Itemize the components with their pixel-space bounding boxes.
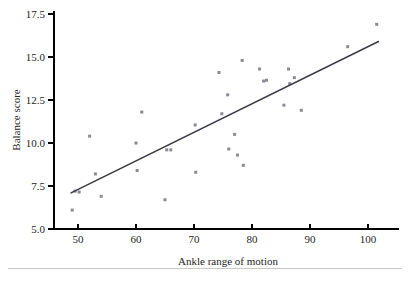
y-tick-label: 12.5 xyxy=(26,94,46,106)
x-axis-title: Ankle range of motion xyxy=(178,255,278,267)
data-point xyxy=(169,148,172,151)
data-point xyxy=(164,198,167,201)
x-tick-label: 100 xyxy=(360,233,377,245)
y-tick-label: 5.0 xyxy=(31,223,45,235)
data-point xyxy=(100,195,103,198)
y-axis-title: Balance score xyxy=(10,89,22,150)
x-tick-label: 90 xyxy=(305,233,317,245)
data-point xyxy=(220,112,223,115)
data-point xyxy=(346,45,349,48)
data-point xyxy=(227,148,230,151)
y-tick-label: 10.0 xyxy=(26,137,46,149)
x-tick-label: 70 xyxy=(189,233,201,245)
x-tick-label: 60 xyxy=(131,233,143,245)
data-point xyxy=(300,109,303,112)
data-point xyxy=(94,172,97,175)
data-point xyxy=(78,191,81,194)
data-point xyxy=(194,123,197,126)
data-point xyxy=(242,164,245,167)
data-point xyxy=(233,133,236,136)
data-point xyxy=(282,104,285,107)
data-point xyxy=(258,68,261,71)
data-point xyxy=(88,135,91,138)
y-tick-label: 15.0 xyxy=(26,51,46,63)
data-point xyxy=(287,68,290,71)
data-point xyxy=(241,59,244,62)
y-tick-label: 7.5 xyxy=(31,180,45,192)
data-point xyxy=(71,209,74,212)
data-point xyxy=(375,23,378,26)
y-tick-label: 17.5 xyxy=(26,8,46,20)
x-tick-label: 50 xyxy=(73,233,85,245)
data-point xyxy=(226,93,229,96)
data-point xyxy=(262,80,265,83)
chart-canvas: 17.5 15.0 12.5 10.0 7.5 5.0 50 60 70 80 … xyxy=(0,0,410,281)
data-point xyxy=(293,76,296,79)
data-point xyxy=(236,154,239,157)
data-point xyxy=(136,169,139,172)
data-point xyxy=(165,148,168,151)
scatter-plot-figure: 17.5 15.0 12.5 10.0 7.5 5.0 50 60 70 80 … xyxy=(0,0,410,281)
regression-line xyxy=(71,42,378,193)
x-tick-label: 80 xyxy=(247,233,259,245)
data-point xyxy=(140,111,143,114)
data-point xyxy=(265,79,268,82)
x-axis-tick-labels: 50 60 70 80 90 100 xyxy=(73,233,377,245)
data-point xyxy=(135,142,138,145)
x-axis-ticks xyxy=(78,224,368,229)
data-point xyxy=(217,71,220,74)
y-axis-ticks xyxy=(48,14,54,229)
y-axis-tick-labels: 17.5 15.0 12.5 10.0 7.5 5.0 xyxy=(26,8,46,235)
data-point xyxy=(194,171,197,174)
